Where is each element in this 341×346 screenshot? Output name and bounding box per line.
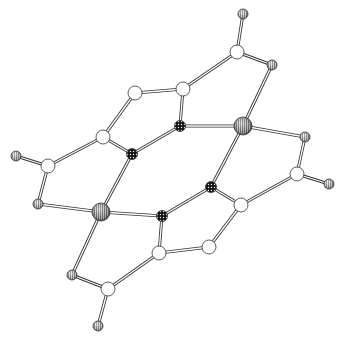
- methyl-atom-shading: [239, 10, 248, 19]
- carbon-atom: [152, 246, 166, 260]
- carbon-atom: [101, 282, 115, 296]
- methyl-atom-shading: [94, 322, 103, 331]
- carbon-atom: [128, 86, 142, 100]
- bond-highlight: [241, 174, 297, 205]
- bond-highlight: [159, 247, 209, 253]
- metal-atom-shading: [93, 204, 108, 219]
- bond-highlight: [243, 126, 305, 137]
- bond-highlight: [72, 212, 101, 275]
- bond-highlight: [103, 93, 135, 137]
- bond-highlight: [132, 126, 180, 154]
- molecular-structure-diagram: [0, 0, 341, 346]
- oxygen-atom-shading: [68, 271, 77, 280]
- bond-highlight: [48, 137, 103, 166]
- atoms-layer: [11, 9, 334, 331]
- oxygen-atom-shading: [301, 133, 310, 142]
- bond-highlight: [211, 126, 243, 187]
- carbon-atom: [234, 198, 248, 212]
- oxygen-atom-shading: [34, 200, 43, 209]
- metal-atom-shading: [235, 118, 250, 133]
- carbon-atom: [230, 45, 244, 59]
- nitrogen-atom: [206, 182, 217, 193]
- methyl-atom-shading: [325, 180, 334, 189]
- bond-highlight: [243, 65, 272, 126]
- bond-highlight: [183, 52, 237, 89]
- bond-highlight: [101, 154, 132, 212]
- nitrogen-atom: [127, 149, 138, 160]
- bond-highlight: [209, 205, 241, 247]
- carbon-atom: [96, 130, 110, 144]
- carbon-atom: [290, 167, 304, 181]
- carbon-atom: [41, 159, 55, 173]
- nitrogen-atom: [157, 211, 168, 222]
- bond-highlight: [162, 187, 211, 216]
- bond-highlight: [108, 253, 159, 289]
- carbon-atom: [176, 82, 190, 96]
- carbon-atom: [202, 240, 216, 254]
- bond-highlight: [38, 204, 101, 212]
- methyl-atom-shading: [12, 152, 21, 161]
- bonds-layer: [16, 14, 329, 326]
- oxygen-atom-shading: [268, 61, 277, 70]
- nitrogen-atom: [175, 121, 186, 132]
